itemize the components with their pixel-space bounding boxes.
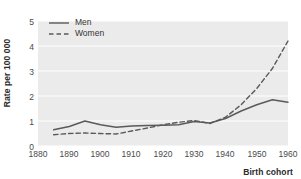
- plot-background: [38, 21, 288, 146]
- x-tick-label-1890: 1890: [52, 149, 86, 159]
- legend-entry-men: Men: [48, 17, 104, 28]
- legend-label-men: Men: [75, 17, 92, 28]
- x-tick-label-1940: 1940: [208, 149, 242, 159]
- line-chart-figure: Rate per 100 000 5 4 3 2 1 0 Men: [0, 0, 301, 179]
- x-tick-label-1920: 1920: [146, 149, 180, 159]
- x-tick-label-1900: 1900: [83, 149, 117, 159]
- chart-legend: Men Women: [48, 17, 104, 39]
- x-tick-label-1930: 1930: [177, 149, 211, 159]
- x-axis-title: Birth cohort: [243, 167, 293, 177]
- legend-label-women: Women: [75, 28, 104, 39]
- x-tick-label-1950: 1950: [240, 149, 274, 159]
- legend-swatch-men-icon: [48, 19, 70, 27]
- x-tick-label-1910: 1910: [114, 149, 148, 159]
- legend-entry-women: Women: [48, 28, 104, 39]
- x-tick-label-1880: 1880: [21, 149, 55, 159]
- x-tick-label-1960: 1960: [271, 149, 301, 159]
- legend-swatch-women-icon: [48, 30, 70, 38]
